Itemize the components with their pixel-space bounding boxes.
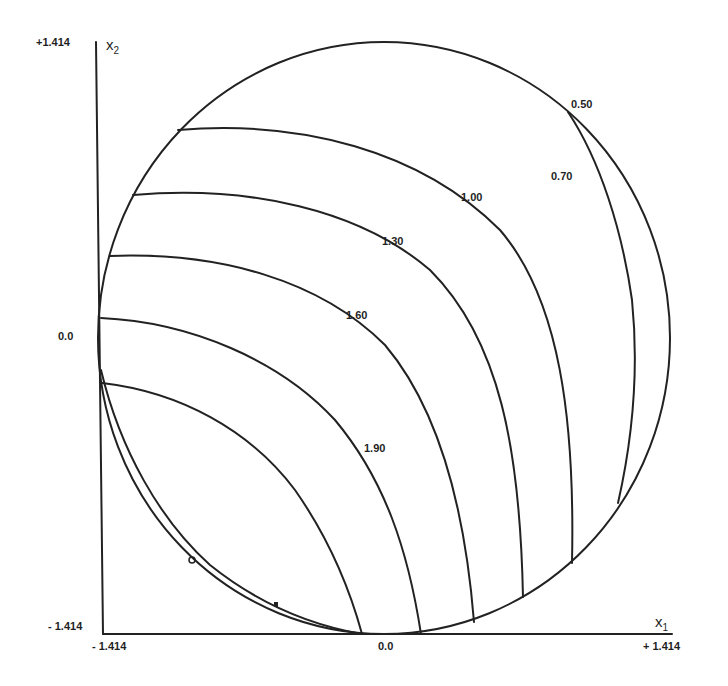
- x-tick-right: + 1.414: [643, 640, 680, 652]
- contour-label-1.00: 1.00: [461, 191, 482, 203]
- contour-1.90: [102, 383, 362, 634]
- x-axis-label: x1: [655, 613, 668, 633]
- contour-label-0.70: 0.70: [551, 170, 572, 182]
- contour-inner-boundary: [101, 370, 362, 634]
- contour-0.70: [178, 128, 572, 563]
- y-tick-bottom: - 1.414: [48, 620, 82, 632]
- contour-plot: [0, 0, 728, 686]
- y-tick-mid: 0.0: [58, 330, 73, 342]
- contour-label-1.30: 1.30: [382, 235, 403, 247]
- contour-1.60: [101, 318, 421, 634]
- contour-1.00: [133, 193, 523, 597]
- y-tick-top: +1.414: [36, 36, 70, 48]
- y-axis-label: x2: [106, 36, 119, 56]
- contour-label-1.60: 1.60: [346, 309, 367, 321]
- design-point-marker: [274, 602, 278, 607]
- design-region-circle: [98, 42, 670, 634]
- x-tick-left: - 1.414: [92, 640, 126, 652]
- contour-label-0.50: 0.50: [571, 98, 592, 110]
- contour-label-1.90: 1.90: [364, 442, 385, 454]
- contour-0.50: [568, 112, 635, 503]
- x-tick-mid: 0.0: [378, 640, 393, 652]
- contour-1.30: [110, 256, 474, 622]
